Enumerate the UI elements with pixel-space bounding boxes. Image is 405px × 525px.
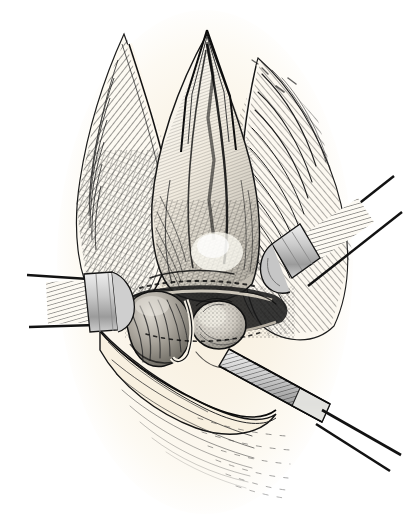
- anatomical-engraving-plate: Operative field of an inguinal exposure: [0, 0, 405, 525]
- figure-root: Operative field of an inguinal exposure: [0, 0, 405, 525]
